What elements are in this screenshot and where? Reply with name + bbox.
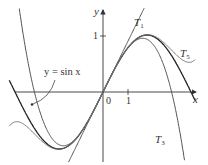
t3-label: T3	[155, 134, 165, 147]
origin-label: 0	[106, 96, 111, 106]
x-axis-label: x	[193, 94, 198, 105]
t1-label-sub: 1	[140, 22, 144, 30]
taylor-plot	[0, 0, 208, 165]
sin-curve-label: y = sin x	[44, 67, 81, 78]
sin-label-pointer-dot	[31, 103, 34, 106]
t3-label-sub: 3	[161, 139, 165, 147]
y-axis-label: y	[94, 6, 99, 17]
t5-label-sub: 5	[186, 53, 190, 61]
t5-label: T5	[180, 48, 190, 61]
y-tick-label: 1	[93, 31, 98, 41]
t1-label: T1	[134, 17, 144, 30]
x-tick-label: 1	[126, 96, 131, 106]
sin-curve-label-text: y = sin x	[44, 66, 81, 77]
